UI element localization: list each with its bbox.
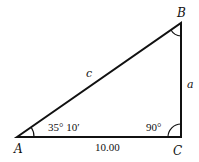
vertex-label-c: C [173,144,182,158]
side-label-c: c [86,67,92,80]
side-label-a: a [187,78,194,91]
vertex-label-a: A [13,142,23,156]
angle-arc-a [31,127,34,137]
angle-arc-c [168,124,181,137]
vertex-label-b: B [176,6,186,20]
side-label-b: 10.00 [95,141,120,153]
angle-label-c: 90° [146,121,161,133]
angle-arc-b [171,30,181,36]
angle-label-a: 35° 10′ [48,121,80,133]
triangle-abc [17,23,181,137]
right-triangle-diagram: A B C c a 10.00 35° 10′ 90° [0,0,199,162]
